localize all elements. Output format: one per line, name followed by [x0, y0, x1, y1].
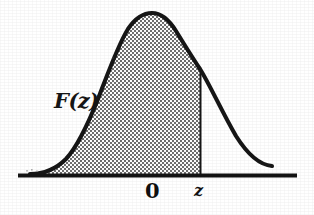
curve-area-label: F(z) [54, 90, 99, 111]
x-axis-label-z: z [194, 183, 203, 199]
normal-distribution-figure: F(z) 0 z [0, 0, 314, 215]
x-axis-label-zero: 0 [145, 180, 160, 201]
